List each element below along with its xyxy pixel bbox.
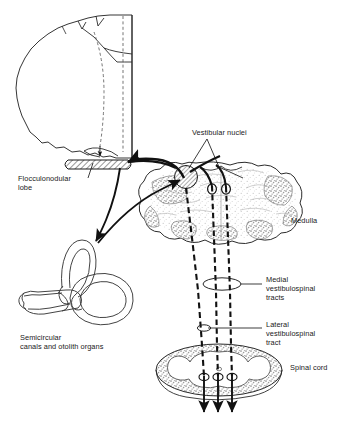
labyrinth — [19, 240, 133, 325]
label-medial-tract-line2: vestibulospinal — [266, 284, 315, 293]
label-lateral-tract-line3: tract — [266, 338, 281, 347]
label-lateral-tract-line1: Lateral — [266, 320, 289, 329]
label-medial-tract-line3: tracts — [266, 293, 284, 302]
flocculonodular-lobe — [65, 160, 131, 169]
label-spinal-cord: Spinal cord — [290, 363, 328, 372]
medial-tract-callout-ellipse — [203, 278, 241, 290]
cerebellum — [16, 15, 132, 158]
label-medulla: Medulla — [291, 216, 317, 225]
figure-canvas — [0, 0, 354, 423]
label-medial-tract-line1: Medial — [266, 275, 288, 284]
vestibular-pathway-figure: Vestibular nuclei Flocculonodular lobe M… — [0, 0, 354, 423]
label-semicircular-line1: Semicircular — [20, 333, 61, 342]
label-flocculonodular-lobe-line2: lobe — [18, 183, 32, 192]
label-flocculonodular-lobe-line1: Flocculonodular — [18, 174, 71, 183]
tract-callout-markers — [197, 278, 241, 331]
medulla-section — [139, 162, 303, 244]
label-semicircular-line2: canals and otolith organs — [20, 342, 103, 351]
label-vestibular-nuclei: Vestibular nuclei — [192, 128, 247, 137]
spinal-cord-section — [156, 344, 282, 400]
label-lateral-tract-line2: vestibulospinal — [266, 329, 315, 338]
